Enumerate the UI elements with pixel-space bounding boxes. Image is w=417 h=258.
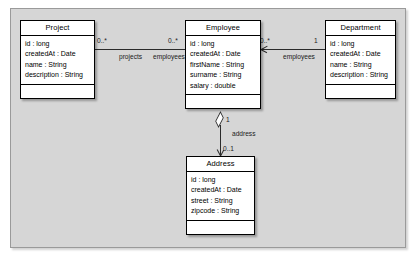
class-attributes-address: id : long createdAt : Date street : Stri… bbox=[187, 172, 254, 221]
attribute: description : String bbox=[330, 70, 392, 81]
attribute: description : String bbox=[25, 70, 91, 81]
class-operations-department bbox=[326, 85, 395, 98]
class-operations-address bbox=[187, 221, 254, 234]
attribute: createdAt : Date bbox=[330, 49, 392, 60]
class-name-employee: Employee bbox=[186, 21, 260, 36]
attribute: createdAt : Date bbox=[190, 49, 257, 60]
attribute: street : String bbox=[191, 196, 251, 207]
class-attributes-project: id : long createdAt : Date name : String… bbox=[21, 36, 94, 85]
class-attributes-employee: id : long createdAt : Date firstName : S… bbox=[186, 36, 260, 96]
role-employees-right: employees bbox=[283, 54, 315, 61]
role-projects: projects bbox=[119, 54, 142, 61]
class-name-address: Address bbox=[187, 157, 254, 172]
attribute: createdAt : Date bbox=[25, 49, 91, 60]
association-line-employee-department[interactable] bbox=[261, 49, 325, 50]
class-box-employee[interactable]: Employee id : long createdAt : Date firs… bbox=[185, 20, 261, 109]
attribute: salary : double bbox=[190, 81, 257, 92]
attribute: id : long bbox=[190, 39, 257, 50]
role-address: address bbox=[232, 131, 255, 138]
attribute: name : String bbox=[330, 60, 392, 71]
multiplicity-address-target: 0..1 bbox=[223, 146, 234, 153]
aggregation-line-employee-address[interactable] bbox=[220, 125, 221, 156]
class-box-address[interactable]: Address id : long createdAt : Date stree… bbox=[186, 156, 255, 235]
diagram-canvas[interactable]: 0..* projects 0..* employees 0..* 1 empl… bbox=[10, 8, 406, 248]
class-name-project: Project bbox=[21, 21, 94, 36]
multiplicity-employee-end-left: 0..* bbox=[168, 38, 178, 45]
class-operations-project bbox=[21, 85, 94, 98]
multiplicity-department-end: 1 bbox=[314, 38, 318, 45]
multiplicity-employee-end-right: 0..* bbox=[260, 38, 270, 45]
attribute: firstName : String bbox=[190, 60, 257, 71]
attribute: id : long bbox=[191, 175, 251, 186]
attribute: surname : String bbox=[190, 70, 257, 81]
class-attributes-department: id : long createdAt : Date name : String… bbox=[326, 36, 395, 85]
class-operations-employee bbox=[186, 95, 260, 108]
attribute: id : long bbox=[330, 39, 392, 50]
multiplicity-address-source: 1 bbox=[226, 117, 230, 124]
association-line-project-employee[interactable] bbox=[94, 49, 186, 50]
class-box-project[interactable]: Project id : long createdAt : Date name … bbox=[20, 20, 95, 99]
attribute: zipcode : String bbox=[191, 206, 251, 217]
multiplicity-project-end: 0..* bbox=[97, 38, 107, 45]
role-employees-left: employees bbox=[153, 54, 185, 61]
class-name-department: Department bbox=[326, 21, 395, 36]
attribute: name : String bbox=[25, 60, 91, 71]
class-box-department[interactable]: Department id : long createdAt : Date na… bbox=[325, 20, 396, 99]
attribute: id : long bbox=[25, 39, 91, 50]
attribute: createdAt : Date bbox=[191, 185, 251, 196]
